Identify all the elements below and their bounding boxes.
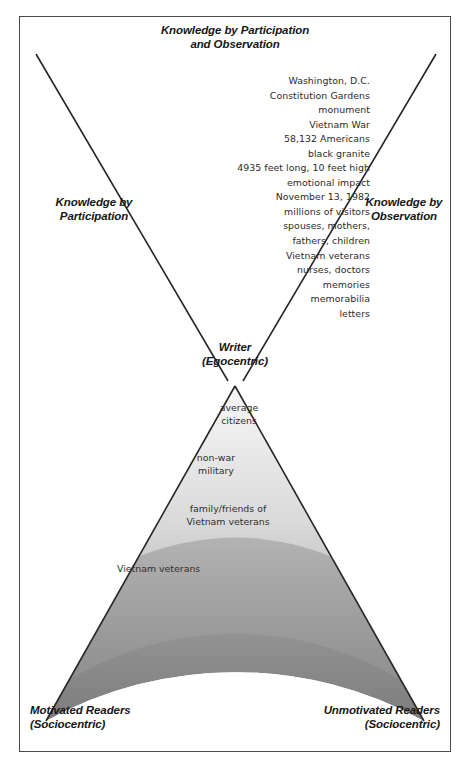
label-bottom-left-line-1: Motivated Readers [30,704,230,718]
label-writer-egocentric: Writer (Egocentric) [155,341,315,368]
fan-band-label-average-citizens: average citizens [199,402,279,427]
detail-list-item: letters [60,307,370,322]
detail-list-item: monument [60,103,370,118]
label-knowledge-by-observation: Knowledge by Observation [344,196,464,223]
detail-list-item: nurses, doctors [60,263,370,278]
detail-list-item: Vietnam veterans [60,249,370,264]
label-bottom-right-line-2: (Sociocentric) [240,718,440,732]
detail-list-item: Washington, D.C. [60,74,370,89]
label-writer-line-2: (Egocentric) [155,355,315,369]
detail-list-item: Vietnam War [60,118,370,133]
fan-band-label-family-friends: family/friends of Vietnam veterans [148,503,308,528]
label-unmotivated-readers: Unmotivated Readers (Sociocentric) [240,704,440,731]
label-knowledge-by-participation: Knowledge by Participation [34,196,154,223]
figure-title: Knowledge by Participation and Observati… [0,24,470,51]
label-left-line-1: Knowledge by [34,196,154,210]
detail-list-item: 58,132 Americans [60,132,370,147]
label-right-line-2: Observation [344,210,464,224]
label-motivated-readers: Motivated Readers (Sociocentric) [30,704,230,731]
label-right-line-1: Knowledge by [344,196,464,210]
fan-band-label-vietnam-veterans: Vietnam veterans [117,563,277,576]
figure-title-line-1: Knowledge by Participation [0,24,470,38]
detail-list-item: memories [60,278,370,293]
figure-root: Knowledge by Participation and Observati… [0,0,470,774]
detail-list-item: memorabilia [60,292,370,307]
figure-title-line-2: and Observation [0,38,470,52]
label-bottom-left-line-2: (Sociocentric) [30,718,230,732]
label-writer-line-1: Writer [155,341,315,355]
detail-list-item: emotional impact [60,176,370,191]
detail-list-item: black granite [60,147,370,162]
detail-list-item: fathers, children [60,234,370,249]
fan-band-label-non-war-military: non-war military [176,452,256,477]
label-left-line-2: Participation [34,210,154,224]
detail-list-item: 4935 feet long, 10 feet high [60,161,370,176]
detail-list-item: Constitution Gardens [60,89,370,104]
label-bottom-right-line-1: Unmotivated Readers [240,704,440,718]
